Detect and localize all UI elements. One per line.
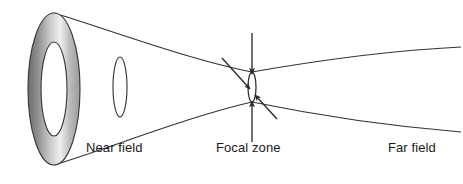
beam-lower-boundary (54, 102, 461, 165)
label-focal-zone: Focal zone (216, 140, 281, 155)
transducer-inner-aperture (41, 42, 67, 136)
focal-zone-ellipse (248, 72, 256, 102)
annular-transducer (28, 13, 80, 165)
beam-upper-boundary (54, 13, 461, 72)
near-field-waist-ellipse (113, 57, 127, 117)
focal-length-arrow (222, 58, 277, 119)
label-near-field: Near field (86, 140, 143, 155)
label-far-field: Far field (388, 140, 436, 155)
beam-profile-graphic (0, 0, 463, 184)
ultrasound-beam-diagram: Near field Focal zone Far field (0, 0, 463, 184)
